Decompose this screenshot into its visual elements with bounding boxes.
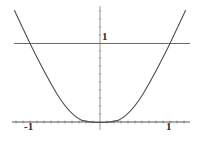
y-axis-tick-label-one: 1: [102, 31, 108, 42]
x-axis-tick-label-one: 1: [166, 121, 172, 132]
x-axis-tick-label-negative-one: -1: [24, 121, 33, 132]
parabola-figure: 1 -1 1: [0, 0, 198, 142]
